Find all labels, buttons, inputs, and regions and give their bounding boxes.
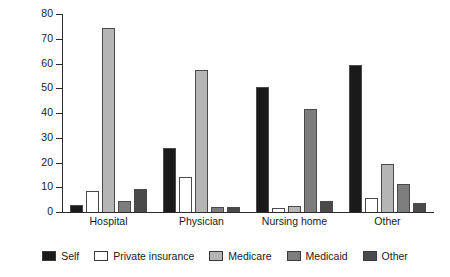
y-axis-tick-label: 70 bbox=[41, 32, 53, 45]
y-axis-tick-label: 60 bbox=[41, 57, 53, 70]
x-axis-label-physician: Physician bbox=[163, 215, 241, 227]
bar-physician-self bbox=[163, 148, 177, 212]
chart-legend: SelfPrivate insuranceMedicareMedicaidOth… bbox=[0, 250, 450, 262]
legend-swatch-icon bbox=[363, 251, 377, 261]
y-axis-tick: 80 bbox=[56, 14, 62, 15]
y-axis-tick-label: 40 bbox=[41, 106, 53, 119]
x-axis-label-nursing-home: Nursing home bbox=[256, 215, 334, 227]
legend-label: Private insurance bbox=[113, 250, 194, 262]
y-axis-tick: 20 bbox=[56, 163, 62, 164]
bar-nursing-home-medicaid bbox=[304, 109, 318, 212]
y-axis-tick: 60 bbox=[56, 64, 62, 65]
x-axis-label-hospital: Hospital bbox=[70, 215, 148, 227]
bar-nursing-home-private-insurance bbox=[272, 208, 286, 212]
y-axis-tick-label: 10 bbox=[41, 180, 53, 193]
legend-label: Self bbox=[61, 250, 79, 262]
bar-hospital-self bbox=[70, 205, 84, 212]
bar-hospital-medicaid bbox=[118, 201, 132, 212]
bar-physician-medicare bbox=[195, 70, 209, 212]
bar-nursing-home-other bbox=[320, 201, 334, 212]
y-axis-tick: 30 bbox=[56, 138, 62, 139]
bar-hospital-private-insurance bbox=[86, 191, 100, 212]
y-axis-tick-label: 30 bbox=[41, 131, 53, 144]
legend-item-self[interactable]: Self bbox=[42, 250, 79, 262]
legend-swatch-icon bbox=[209, 251, 223, 261]
x-axis-line bbox=[62, 212, 434, 213]
legend-swatch-icon bbox=[287, 251, 301, 261]
y-axis-tick: 50 bbox=[56, 88, 62, 89]
bar-other-self bbox=[349, 65, 363, 212]
chart-container: Percentage of total 01020304050607080 Ho… bbox=[0, 0, 450, 277]
y-axis-tick: 10 bbox=[56, 187, 62, 188]
bar-hospital-medicare bbox=[102, 28, 116, 212]
bar-hospital-other bbox=[134, 189, 148, 213]
y-axis-tick-label: 50 bbox=[41, 81, 53, 94]
y-axis-tick: 40 bbox=[56, 113, 62, 114]
y-axis-line bbox=[62, 14, 63, 212]
bar-group-hospital: Hospital bbox=[70, 14, 148, 212]
y-axis-tick-label: 20 bbox=[41, 156, 53, 169]
legend-item-other[interactable]: Other bbox=[363, 250, 408, 262]
bar-other-private-insurance bbox=[365, 198, 379, 212]
bar-group-other: Other bbox=[349, 14, 427, 212]
legend-swatch-icon bbox=[42, 251, 56, 261]
bar-other-other bbox=[413, 203, 427, 212]
legend-label: Medicaid bbox=[306, 250, 348, 262]
legend-label: Other bbox=[382, 250, 408, 262]
bar-physician-medicaid bbox=[211, 207, 225, 212]
legend-label: Medicare bbox=[228, 250, 271, 262]
y-axis-tick-label: 80 bbox=[41, 7, 53, 20]
legend-item-medicaid[interactable]: Medicaid bbox=[287, 250, 348, 262]
y-axis-tick-label: 0 bbox=[47, 205, 53, 218]
bar-group-physician: Physician bbox=[163, 14, 241, 212]
x-axis-label-other: Other bbox=[349, 215, 427, 227]
bar-other-medicare bbox=[381, 164, 395, 212]
bar-physician-private-insurance bbox=[179, 177, 193, 212]
y-axis-tick: 70 bbox=[56, 39, 62, 40]
legend-item-medicare[interactable]: Medicare bbox=[209, 250, 271, 262]
bar-group-nursing-home: Nursing home bbox=[256, 14, 334, 212]
y-axis-tick: 0 bbox=[56, 212, 62, 213]
bar-other-medicaid bbox=[397, 184, 411, 212]
bar-nursing-home-self bbox=[256, 87, 270, 212]
plot-area: 01020304050607080 HospitalPhysicianNursi… bbox=[62, 14, 434, 212]
legend-swatch-icon bbox=[94, 251, 108, 261]
bar-physician-other bbox=[227, 207, 241, 212]
legend-item-private-insurance[interactable]: Private insurance bbox=[94, 250, 194, 262]
bar-nursing-home-medicare bbox=[288, 206, 302, 212]
